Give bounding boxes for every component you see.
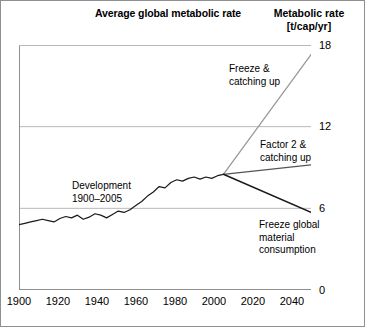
y-tick-label-6: 6 (319, 203, 349, 214)
y-axis-unit-text: [t/cap/yr] (259, 20, 359, 33)
page-title: Average global metabolic rate (75, 7, 261, 20)
annotation-development: Development 1900–2005 (72, 180, 131, 205)
y-tick-label-18: 18 (319, 40, 349, 51)
x-tick-label-1900: 1900 (0, 296, 39, 307)
annotation-freeze-catching-up: Freeze & catching up (229, 63, 280, 88)
x-tick-label-2040: 2040 (272, 296, 312, 307)
x-tick-label-1940: 1940 (77, 296, 117, 307)
x-tick-label-2020: 2020 (233, 296, 273, 307)
y-tick-label-0: 0 (319, 285, 349, 296)
figure-container: Average global metabolic rate Metabolic … (0, 0, 365, 327)
series-factor2-catching-up (223, 165, 311, 175)
x-tick-label-2000: 2000 (194, 296, 234, 307)
series-freeze-material (223, 174, 311, 212)
y-tick-label-12: 12 (319, 121, 349, 132)
y-axis-title-text: Metabolic rate (274, 7, 345, 19)
annotation-factor2-catching-up: Factor 2 & catching up (260, 139, 311, 164)
x-tick-label-1920: 1920 (38, 296, 78, 307)
annotation-freeze-material: Freeze global material consumption (259, 219, 320, 257)
y-axis-title: Metabolic rate [t/cap/yr] (259, 7, 359, 33)
x-tick-label-1980: 1980 (155, 296, 195, 307)
x-tick-label-1960: 1960 (116, 296, 156, 307)
